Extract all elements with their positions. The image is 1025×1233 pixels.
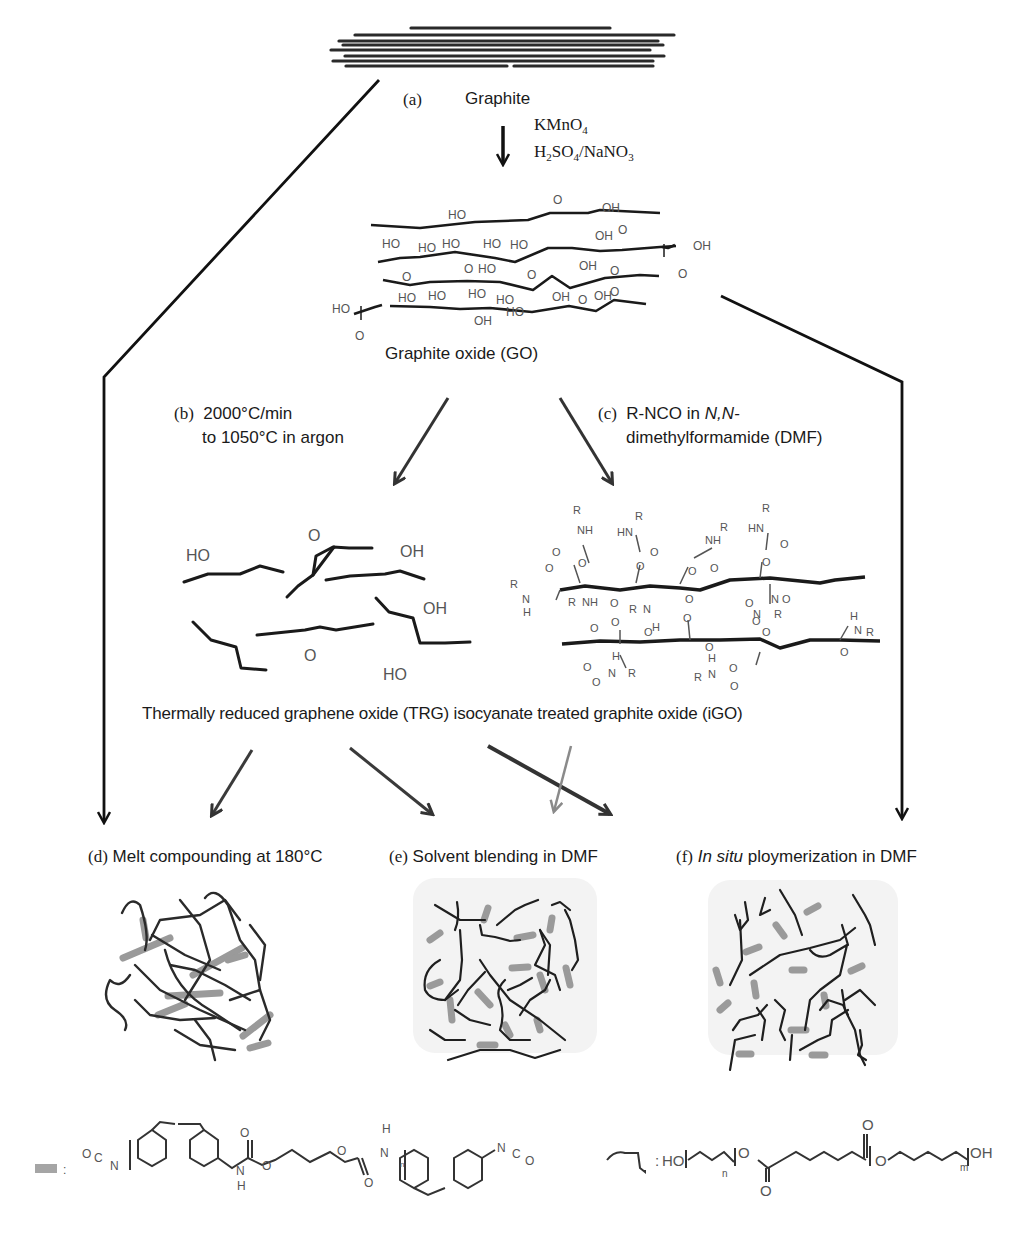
svg-text:O: O [355,329,364,343]
svg-text:NH: NH [705,534,721,546]
svg-text:HO: HO [662,1152,685,1169]
svg-text:O: O [583,661,592,673]
svg-text:O: O [610,597,619,609]
svg-text:O: O [760,1182,772,1199]
legend-polymer-atoms: : HO O O O O OH [655,1116,993,1199]
arrow-go-to-trg [395,398,448,483]
trg-igo-products-label: Thermally reduced graphene oxide (TRG) i… [142,704,742,724]
svg-text:NH: NH [582,596,598,608]
step-a-tag: (a) [403,90,422,110]
svg-text:O: O [578,557,587,569]
graphite-oxide-label: Graphite oxide (GO) [385,344,538,364]
svg-text:O: O [545,562,554,574]
route-d-label: (d) Melt compounding at 180°C [88,847,323,867]
oxidation-reagents: KMnO4 H2SO4/NaNO3 [534,114,634,169]
route-f-label: (f) In situ ploymerization in DMF [676,847,917,867]
svg-text:HO: HO [418,241,436,255]
svg-text:H: H [382,1122,391,1136]
igo-functional-groups: RNHOO RHNOO RNHOO RHNOO RNHO RNHO RNOO O… [510,502,874,692]
svg-text:H: H [850,610,858,622]
svg-text:O: O [710,562,719,574]
svg-text:O: O [762,556,771,568]
melt-compounding-panel [106,893,270,1060]
svg-text:O: O [304,647,316,664]
legend-filler-atoms: : OCN ONH OO OHN n NCO [63,1122,534,1193]
svg-text:O: O [762,626,771,638]
svg-text::: : [63,1163,66,1177]
svg-text:O: O [308,527,320,544]
svg-text:N: N [236,1164,245,1178]
svg-text::: : [655,1152,659,1169]
svg-text:O: O [840,646,849,658]
svg-text:N: N [708,668,716,680]
svg-text:O: O [402,270,411,284]
svg-text:HO: HO [478,262,496,276]
svg-text:O: O [729,662,738,674]
svg-text:H: H [523,606,531,618]
svg-text:HO: HO [332,302,350,316]
svg-text:HO: HO [448,208,466,222]
svg-text:n: n [400,1160,404,1169]
svg-text:O: O [752,615,761,627]
svg-text:HO: HO [398,291,416,305]
step-b-tag: (b) [174,404,194,423]
svg-text:R: R [628,667,636,679]
svg-text:N: N [110,1159,119,1173]
svg-text:OH: OH [579,259,597,273]
svg-text:R: R [568,596,576,608]
svg-text:OH: OH [693,239,711,253]
reagent-h2so4-nano3: H2SO4/NaNO3 [534,141,634,168]
svg-text:O: O [578,293,587,307]
svg-text:O: O [782,593,791,605]
svg-text:N: N [771,593,779,605]
svg-text:O: O [262,1159,271,1173]
svg-text:N: N [497,1141,506,1155]
trg-functional-groups: HOOOH OOHHO [186,527,447,683]
svg-text:N: N [380,1146,389,1160]
svg-text:H: H [652,621,660,633]
svg-text:H: H [708,652,716,664]
svg-text:N: N [643,603,651,615]
graphite-label: Graphite [465,89,530,109]
svg-text:R: R [629,603,637,615]
svg-text:R: R [573,504,581,516]
svg-text:R: R [510,578,518,590]
svg-text:HN: HN [748,522,764,534]
svg-text:HO: HO [468,287,486,301]
svg-text:O: O [618,223,627,237]
svg-text:C: C [94,1151,103,1165]
svg-text:N: N [854,624,862,636]
svg-text:O: O [592,676,601,688]
svg-text:O: O [610,285,619,299]
route-arrow-go-to-insitu [721,296,902,818]
arrow-trg-to-solvent [350,748,432,814]
svg-text:O: O [364,1176,373,1190]
subscript-n: n [722,1168,728,1179]
svg-text:OH: OH [602,201,620,215]
legend-filler-structure [130,1122,495,1195]
step-b-conditions: (b) 2000°C/min to 1050°C in argon [174,402,344,450]
svg-text:HO: HO [510,238,528,252]
reagent-kmno4: KMnO4 [534,114,634,141]
svg-text:O: O [552,546,561,558]
arrow-igo-to-solvent [554,746,571,811]
svg-text:O: O [875,1152,887,1169]
svg-text:R: R [720,521,728,533]
arrow-trg-to-insitu [488,746,610,814]
svg-text:H: H [237,1179,246,1193]
svg-text:HO: HO [428,289,446,303]
arrow-trg-to-melt [212,750,252,815]
svg-text:HO: HO [442,237,460,251]
svg-text:HO: HO [382,237,400,251]
svg-text:H: H [612,650,620,662]
svg-text:O: O [611,616,620,628]
svg-text:N: N [608,667,616,679]
svg-text:OH: OH [552,290,570,304]
scheme-canvas: HOOOH HOHOHO HOHOOH OOHO OOHO OOHO HOHOH… [0,0,1025,1233]
svg-text:NH: NH [577,524,593,536]
svg-text:HO: HO [483,237,501,251]
svg-text:OH: OH [423,600,447,617]
svg-text:C: C [512,1147,521,1161]
svg-text:HO: HO [186,547,210,564]
subscript-m: m [960,1162,968,1173]
